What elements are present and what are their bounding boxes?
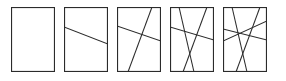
panel-3-frame — [118, 8, 161, 72]
panel-4-canvas — [170, 7, 214, 72]
panel-strip — [0, 0, 286, 81]
panel-4 — [170, 7, 214, 72]
panel-2 — [64, 7, 108, 72]
panel-3-canvas — [117, 7, 161, 72]
panel-3 — [117, 7, 161, 72]
panel-1-frame — [12, 8, 55, 72]
panel-1-canvas — [11, 7, 55, 72]
figure-root — [0, 0, 286, 81]
panel-5 — [223, 7, 267, 72]
panel-2-canvas — [64, 7, 108, 72]
panel-2-frame — [65, 8, 108, 72]
panel-5-canvas — [223, 7, 267, 72]
panel-1 — [11, 7, 55, 72]
